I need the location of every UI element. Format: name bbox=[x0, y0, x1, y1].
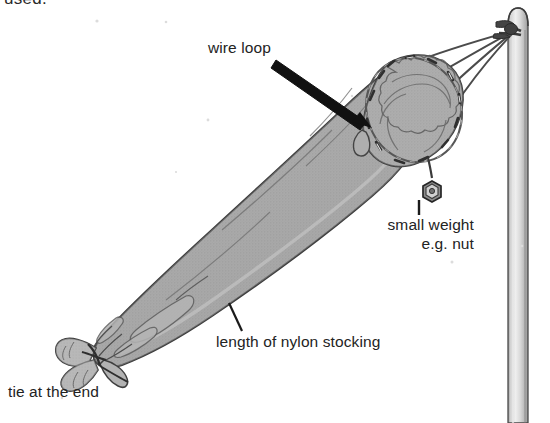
label-small-weight-line1: small weight bbox=[356, 215, 474, 234]
clipped-top-text: used. bbox=[4, 0, 47, 9]
nylon-leader bbox=[229, 303, 242, 331]
pole-group bbox=[508, 8, 528, 423]
label-small-weight: small weight e.g. nut bbox=[356, 215, 474, 253]
hex-nut-bore bbox=[429, 188, 434, 193]
label-tie-at-end: tie at the end bbox=[8, 382, 99, 401]
knot-core bbox=[505, 24, 518, 35]
nut-weight-group bbox=[423, 158, 441, 202]
diagram-figure bbox=[0, 0, 550, 423]
label-small-weight-line2: e.g. nut bbox=[356, 234, 474, 253]
label-wire-loop: wire loop bbox=[208, 38, 271, 57]
label-nylon-stocking: length of nylon stocking bbox=[216, 332, 380, 351]
